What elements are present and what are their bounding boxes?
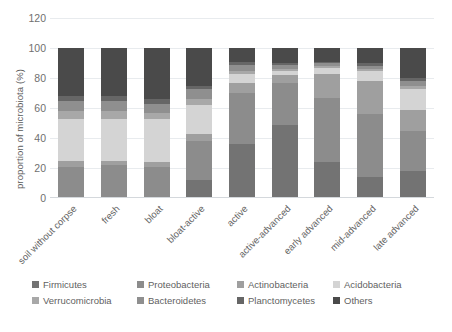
bar-segment[interactable] [272,125,298,199]
y-axis-tick-label: 20 [34,162,46,174]
bar-segment[interactable] [144,104,170,113]
bar-slot [306,18,349,198]
x-axis-tick-label: bloat [142,203,164,225]
x-axis-tick-labels: soil without corpsefreshbloatbloat-activ… [50,199,434,271]
x-axis-label-slot: fresh [93,199,136,271]
y-axis-tick-labels: 020406080100120 [20,18,46,198]
y-axis-tick-label: 40 [34,132,46,144]
legend-item[interactable]: Others [333,293,424,308]
x-axis-label-slot: bloat-active [178,199,221,271]
bar-segment[interactable] [229,74,255,83]
legend-label: Planctomycetes [248,295,315,306]
bar-segment[interactable] [101,119,127,161]
bar-segment[interactable] [357,114,383,177]
bar-slot [135,18,178,198]
bar-slot [263,18,306,198]
bar-segment[interactable] [314,98,340,163]
bar-segment[interactable] [357,48,383,63]
stacked-bar[interactable] [186,48,212,198]
stacked-bar[interactable] [357,48,383,198]
bar-segment[interactable] [229,48,255,62]
bar-slot [93,18,136,198]
bar-group [50,18,434,198]
bar-segment[interactable] [357,71,383,82]
stacked-bar[interactable] [58,48,84,198]
bar-segment[interactable] [144,119,170,163]
legend-label: Others [344,295,373,306]
y-axis-tick-label: 120 [28,12,46,24]
legend-label: Bacteroidetes [148,295,206,306]
bar-segment[interactable] [58,111,84,119]
bar-segment[interactable] [272,75,298,83]
legend-swatch-icon [32,297,39,304]
legend-item[interactable]: Acidobacteria [333,277,424,292]
legend-item[interactable]: Actinobacteria [237,277,333,292]
bar-segment[interactable] [400,110,426,131]
stacked-bar-chart: proportion of microbiota (%) 02040608010… [0,0,452,332]
legend-label: Firmicutes [43,279,87,290]
legend-item[interactable]: Firmicutes [32,277,137,292]
legend-label: Proteobacteria [148,279,210,290]
stacked-bar[interactable] [229,48,255,198]
bar-segment[interactable] [272,83,298,125]
stacked-bar[interactable] [144,48,170,198]
stacked-bar[interactable] [314,48,340,198]
legend-item[interactable]: Verrucomicrobia [32,293,137,308]
bar-segment[interactable] [186,141,212,180]
bar-segment[interactable] [101,111,127,119]
bar-segment[interactable] [144,167,170,197]
y-axis-tick-label: 100 [28,42,46,54]
bar-segment[interactable] [229,144,255,198]
bar-segment[interactable] [144,48,170,99]
bar-segment[interactable] [101,48,127,96]
legend-swatch-icon [333,297,340,304]
legend-swatch-icon [137,281,144,288]
bar-slot [221,18,264,198]
bar-segment[interactable] [357,177,383,198]
stacked-bar[interactable] [272,48,298,198]
x-axis-tick-label: fresh [99,203,122,226]
bar-slot [178,18,221,198]
legend-row: FirmicutesProteobacteriaActinobacteriaAc… [32,277,424,292]
bar-segment[interactable] [101,165,127,197]
bar-segment[interactable] [186,48,212,86]
bar-segment[interactable] [229,93,255,144]
x-axis-line [50,197,434,198]
x-axis-label-slot: soil without corpse [50,199,93,271]
bar-segment[interactable] [186,89,212,100]
bar-segment[interactable] [314,74,340,98]
plot-area [50,18,434,198]
legend-item[interactable]: Planctomycetes [237,293,333,308]
legend-swatch-icon [237,297,244,304]
legend-row: VerrucomicrobiaBacteroidetesPlanctomycet… [32,293,424,308]
legend-swatch-icon [237,281,244,288]
bar-segment[interactable] [58,119,84,161]
stacked-bar[interactable] [400,48,426,198]
bar-segment[interactable] [186,134,212,142]
legend-label: Actinobacteria [248,279,308,290]
bar-segment[interactable] [101,101,127,112]
bar-segment[interactable] [400,89,426,110]
y-axis-tick-label: 80 [34,72,46,84]
bar-segment[interactable] [400,171,426,198]
bar-segment[interactable] [58,48,84,96]
bar-segment[interactable] [400,131,426,172]
bar-segment[interactable] [314,162,340,198]
bar-slot [349,18,392,198]
legend-item[interactable]: Bacteroidetes [137,293,237,308]
bar-segment[interactable] [229,83,255,94]
legend-item[interactable]: Proteobacteria [137,277,237,292]
bar-segment[interactable] [186,105,212,134]
x-axis-label-slot: late advanced [391,199,434,271]
bar-segment[interactable] [272,48,298,63]
x-axis-tick-label: active [224,203,249,228]
legend-swatch-icon [137,297,144,304]
stacked-bar[interactable] [101,48,127,198]
bar-segment[interactable] [58,101,84,112]
bar-segment[interactable] [400,48,426,78]
bar-segment[interactable] [314,48,340,62]
bar-segment[interactable] [357,81,383,114]
y-axis-tick-label: 0 [40,192,46,204]
bar-segment[interactable] [58,167,84,197]
bar-segment[interactable] [186,180,212,198]
